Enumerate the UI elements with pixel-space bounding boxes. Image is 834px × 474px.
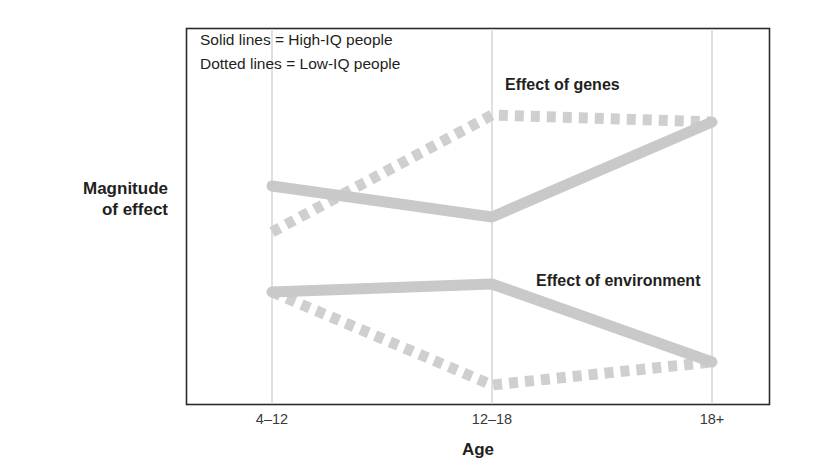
- y-axis-label-line2: of effect: [18, 199, 168, 220]
- annotation-effect-of-genes: Effect of genes: [505, 76, 620, 94]
- annotation-effect-of-environment: Effect of environment: [536, 272, 700, 290]
- x-tick-label-1: 12–18: [432, 411, 552, 427]
- chart-canvas: [0, 0, 834, 474]
- legend-solid-lines: Solid lines = High-IQ people: [200, 31, 393, 49]
- x-tick-label-2: 18+: [652, 411, 772, 427]
- x-tick-label-0: 4–12: [212, 411, 332, 427]
- chart-figure: Solid lines = High-IQ people Dotted line…: [0, 0, 834, 474]
- legend-dotted-lines: Dotted lines = Low-IQ people: [200, 55, 400, 73]
- y-axis-label-line1: Magnitude: [18, 178, 168, 199]
- y-axis-label: Magnitude of effect: [18, 178, 168, 220]
- x-axis-label: Age: [186, 440, 770, 460]
